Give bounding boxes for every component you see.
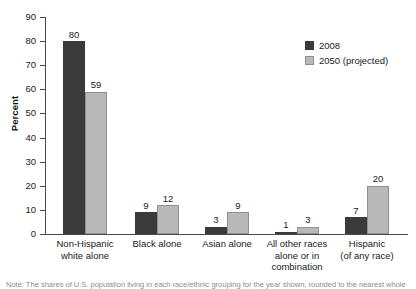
- bar-group: 912: [135, 17, 179, 234]
- y-axis-tick-label: 30: [0, 157, 36, 167]
- legend-label-2050: 2050 (projected): [319, 56, 388, 66]
- bar[interactable]: [345, 217, 367, 234]
- bar[interactable]: [297, 227, 319, 234]
- x-axis-category-label: Hispanic(of any race): [322, 238, 412, 261]
- y-axis-tick-label: 0: [0, 229, 36, 239]
- y-axis-tick-label: 10: [0, 205, 36, 215]
- x-axis-line: [45, 234, 408, 235]
- y-axis-tick-label: 50: [0, 108, 36, 118]
- legend-item-2008[interactable]: 2008: [305, 39, 388, 52]
- y-axis-tick-label: 80: [0, 36, 36, 46]
- bar-value-label: 9: [223, 201, 253, 211]
- bar[interactable]: [205, 227, 227, 234]
- y-axis-tick-label: 40: [0, 133, 36, 143]
- bar[interactable]: [157, 205, 179, 234]
- category-label-line: (of any race): [322, 250, 412, 262]
- y-axis-tick-label: 90: [0, 12, 36, 22]
- bar[interactable]: [135, 212, 157, 234]
- bar-value-label: 20: [363, 174, 393, 184]
- bar-value-label: 80: [59, 30, 89, 40]
- bar-group: 8059: [63, 17, 107, 234]
- category-label-line: combination: [252, 261, 342, 273]
- legend-label-2008: 2008: [319, 41, 340, 51]
- category-label-line: white alone: [40, 250, 130, 262]
- chart-footnote: Note: The shares of U.S. population livi…: [6, 280, 410, 289]
- bar[interactable]: [275, 232, 297, 234]
- category-label-line: Hispanic: [322, 238, 412, 250]
- bar-value-label: 3: [293, 215, 323, 225]
- chart-legend: 2008 2050 (projected): [305, 39, 388, 69]
- bar-group: 39: [205, 17, 249, 234]
- legend-swatch-2050-icon: [305, 56, 314, 65]
- bar[interactable]: [227, 212, 249, 234]
- legend-swatch-2008-icon: [305, 41, 314, 50]
- y-axis-tick: [40, 234, 45, 235]
- bar[interactable]: [367, 186, 389, 234]
- bar[interactable]: [85, 92, 107, 234]
- bar-value-label: 12: [153, 194, 183, 204]
- bar[interactable]: [63, 41, 85, 234]
- bar-value-label: 59: [81, 80, 111, 90]
- legend-item-2050[interactable]: 2050 (projected): [305, 54, 388, 67]
- y-axis-tick-label: 20: [0, 181, 36, 191]
- y-axis-tick-label: 60: [0, 84, 36, 94]
- y-axis-tick-label: 70: [0, 60, 36, 70]
